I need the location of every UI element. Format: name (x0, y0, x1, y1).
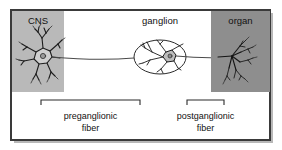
preganglionic-label-line2: fiber (82, 123, 100, 133)
ganglion-label: ganglion (142, 15, 178, 26)
preganglionic-label-line1: preganglionic (64, 111, 118, 121)
cns-label: CNS (28, 15, 48, 26)
organ-label: organ (228, 15, 252, 26)
diagram-canvas: CNS (0, 0, 282, 150)
postganglionic-label-line2: fiber (197, 123, 215, 133)
nervous-system-diagram: CNS (0, 0, 282, 150)
postganglionic-label-line1: postganglionic (177, 111, 235, 121)
